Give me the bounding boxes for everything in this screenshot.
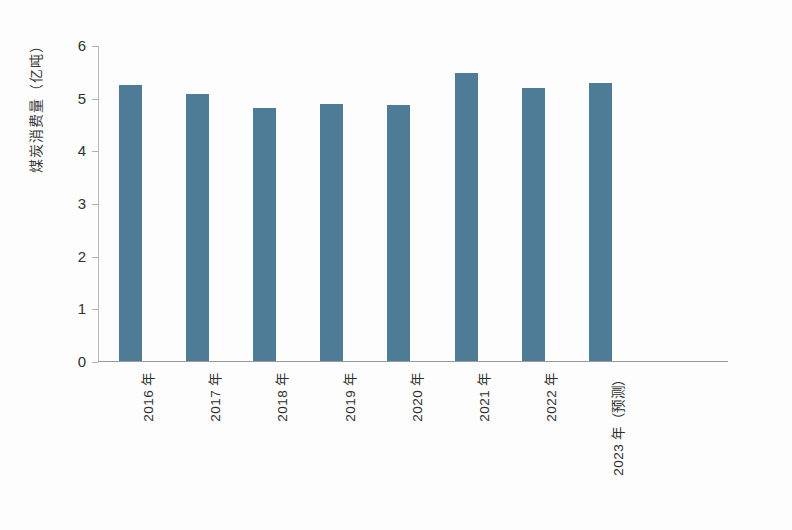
y-tick-label: 4 — [78, 141, 86, 161]
y-tick-label: 6 — [78, 36, 86, 56]
y-tick-mark — [92, 46, 98, 47]
x-axis-label: 2022 年 — [540, 372, 560, 422]
x-axis-label-text: 2022 年 — [540, 372, 560, 422]
y-tick-label: 2 — [78, 247, 86, 267]
x-axis-label: 2016 年 — [137, 372, 157, 422]
y-tick-mark — [92, 362, 98, 363]
x-axis-label-text: 2023 年（预测） — [607, 372, 627, 476]
bar — [589, 83, 612, 361]
x-axis-label-text: 2019 年 — [339, 372, 359, 422]
y-axis-title: 煤炭消费量（亿吨） — [25, 0, 45, 220]
bar — [320, 104, 343, 361]
x-axis-label-text: 2021 年 — [473, 372, 493, 422]
y-tick-mark — [92, 309, 98, 310]
plot-area: 0 1 2 3 4 5 6 — [98, 46, 728, 362]
x-axis-label-text: 2018 年 — [271, 372, 291, 422]
bar — [455, 73, 478, 361]
y-tick-mark — [92, 204, 98, 205]
y-tick-5: 5 — [54, 99, 98, 100]
x-axis-label-text: 2016 年 — [137, 372, 157, 422]
x-axis-line — [98, 361, 728, 362]
x-axis-label: 2018 年 — [271, 372, 291, 422]
y-tick-0: 0 — [54, 362, 98, 363]
bar — [522, 88, 545, 361]
x-axis-label: 2017 年 — [204, 372, 224, 422]
x-axis-label: 2023 年（预测） — [607, 372, 627, 476]
y-tick-3: 3 — [54, 204, 98, 205]
bar — [253, 108, 276, 361]
bar — [186, 94, 209, 361]
y-tick-mark — [92, 257, 98, 258]
x-axis-label: 2019 年 — [339, 372, 359, 422]
y-tick-2: 2 — [54, 257, 98, 258]
x-axis-label: 2021 年 — [473, 372, 493, 422]
y-tick-mark — [92, 99, 98, 100]
bar-chart: 煤炭消费量（亿吨） 0 1 2 3 4 5 6 — [0, 0, 792, 530]
bar — [119, 85, 142, 362]
y-tick-mark — [92, 151, 98, 152]
y-axis-line — [98, 46, 99, 362]
x-axis-label-text: 2020 年 — [406, 372, 426, 422]
y-tick-6: 6 — [54, 46, 98, 47]
y-tick-label: 0 — [78, 352, 86, 372]
y-tick-label: 3 — [78, 194, 86, 214]
bar — [387, 105, 410, 361]
y-tick-4: 4 — [54, 151, 98, 152]
y-tick-label: 1 — [78, 299, 86, 319]
y-tick-1: 1 — [54, 309, 98, 310]
y-tick-label: 5 — [78, 89, 86, 109]
x-axis-label: 2020 年 — [406, 372, 426, 422]
x-axis-label-text: 2017 年 — [204, 372, 224, 422]
